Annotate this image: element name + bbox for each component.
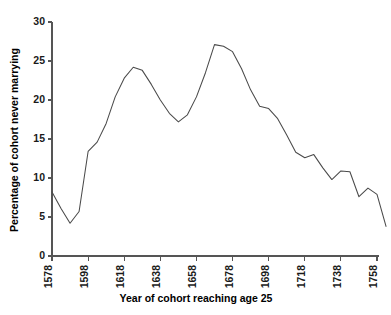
x-tick-label: 1618 [114, 265, 126, 289]
y-tick-label: 30 [33, 15, 45, 27]
x-tick-label: 1598 [78, 265, 90, 289]
x-tick-label: 1578 [42, 265, 54, 289]
x-tick-label: 1638 [150, 265, 162, 289]
x-tick-label: 1718 [295, 265, 307, 289]
x-tick-label: 1738 [331, 265, 343, 289]
x-tick-label: 1658 [186, 265, 198, 289]
x-tick-label: 1698 [259, 265, 271, 289]
y-tick-label: 0 [39, 249, 45, 261]
line-chart: 051015202530 157815981618163816581678169… [0, 0, 391, 315]
y-tick-label: 15 [33, 132, 45, 144]
y-tick-label: 5 [39, 210, 45, 222]
data-series-line [52, 45, 386, 227]
y-tick-label: 20 [33, 93, 45, 105]
x-tick-label: 1758 [367, 265, 379, 289]
y-tick-label: 25 [33, 54, 45, 66]
y-tick-label: 10 [33, 171, 45, 183]
y-axis-tick-labels: 051015202530 [33, 15, 45, 261]
x-axis-tick-labels: 1578159816181638165816781698171817381758 [42, 265, 379, 289]
x-axis-tick-marks [52, 256, 377, 261]
x-axis-title: Year of cohort reaching age 25 [120, 292, 273, 304]
y-axis-title: Percentage of cohort never marrying [8, 48, 20, 232]
x-tick-label: 1678 [223, 265, 235, 289]
chart-figure: 051015202530 157815981618163816581678169… [0, 0, 391, 315]
